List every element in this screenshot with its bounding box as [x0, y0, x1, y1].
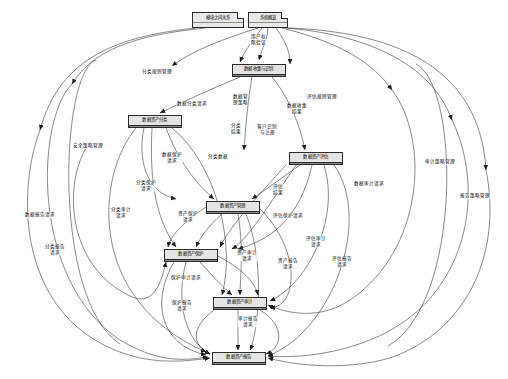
edge-label: 客户识别 与注册 — [257, 124, 278, 135]
node-title: 数据资产保护 — [165, 250, 217, 260]
edge-label: 资产报告 请求 — [278, 258, 299, 269]
node-body — [213, 363, 265, 364]
node-overview[interactable]: 系统概览 — [248, 12, 288, 28]
node-report[interactable]: 数据资产报告 — [212, 352, 266, 365]
edge-label: 分类 结果 — [231, 123, 242, 134]
node-audit[interactable]: 数据资产审计 — [213, 297, 267, 310]
node-body — [165, 260, 217, 261]
edge-label: 用户权 限验证 — [250, 34, 266, 45]
node-body — [214, 308, 266, 309]
node-body — [233, 75, 285, 76]
edge-label: 分类保护 请求 — [136, 180, 157, 191]
node-manage[interactable]: 数据资产管理 — [206, 201, 260, 214]
edge-label: 安全策略管理 — [73, 143, 104, 149]
edge-label: 数据审计请求 — [354, 181, 385, 187]
edge-label: 审计报告 请求 — [238, 316, 259, 327]
edge-label: 数据管 理策略 — [232, 94, 248, 105]
edge-label: 评估 结果 — [273, 184, 284, 195]
edge-label: 数据报告请求 — [25, 212, 56, 218]
node-body — [290, 163, 342, 164]
edge-label: 评估报告 请求 — [332, 256, 353, 267]
node-title: 数据资产评估 — [290, 153, 342, 163]
node-evaluate[interactable]: 数据资产评估 — [289, 152, 343, 165]
node-body — [207, 212, 259, 213]
edge-label: 报告策略管理 — [460, 193, 491, 199]
node-title: 数据资产管理 — [207, 202, 259, 212]
edge-label: 数据收集 结果 — [287, 103, 308, 114]
node-classify[interactable]: 数据资产分类 — [128, 115, 182, 128]
edge-label: 资产保护 请求 — [178, 211, 199, 222]
node-protect[interactable]: 数据资产保护 — [164, 249, 218, 262]
edge-label: 分类审计 请求 — [111, 207, 132, 218]
node-title: 模块之间关系 — [193, 13, 243, 22]
edge-label: 评估规则管理 — [307, 94, 338, 100]
edge-label: 评估审计 请求 — [306, 236, 327, 247]
edge-label: 评估保护请求 — [273, 213, 304, 219]
node-body — [129, 126, 181, 127]
node-title: 数据资产分类 — [129, 116, 181, 126]
node-body — [249, 22, 287, 28]
node-title: 数据收集与识别 — [233, 65, 285, 75]
edge-label: 分类数据 — [208, 154, 229, 160]
node-collect[interactable]: 数据收集与识别 — [232, 64, 286, 77]
node-relation[interactable]: 模块之间关系 — [192, 12, 244, 28]
fold-corner-icon — [237, 12, 244, 19]
edge-label: 分类报告 请求 — [45, 244, 66, 255]
edge-label: 数据分类请求 — [177, 101, 208, 107]
edge-label: 分类规则管理 — [142, 69, 173, 75]
diagram-canvas: 模块之间关系系统概览数据收集与识别数据资产分类数据资产评估数据资产管理数据资产保… — [0, 0, 508, 379]
edge-label: 资产审计 请求 — [237, 250, 258, 261]
edge-label: 保护报告 请求 — [172, 300, 193, 311]
node-body — [193, 22, 243, 28]
node-title: 数据资产报告 — [213, 353, 265, 363]
node-title: 数据资产审计 — [214, 298, 266, 308]
fold-corner-icon — [281, 12, 288, 19]
edge-label: 保护审计请求 — [171, 275, 202, 281]
edge-label: 数据保护 请求 — [162, 152, 183, 163]
edge-label: 审计策略管理 — [425, 159, 456, 165]
